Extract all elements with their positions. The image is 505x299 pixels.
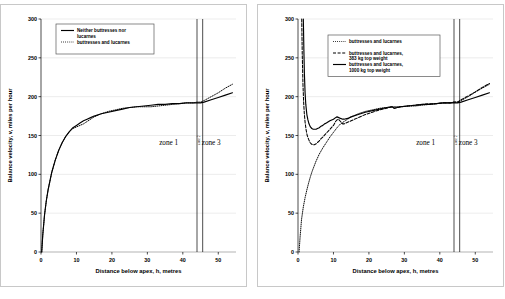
y-tick-label: 50 xyxy=(31,210,37,216)
y-tick-label: 0 xyxy=(291,249,294,255)
x-tick-label: 10 xyxy=(330,257,336,263)
y-tick-label: 200 xyxy=(28,94,37,100)
x-axis-title: Distance below apex, h, metres xyxy=(352,268,438,274)
x-tick-label: 30 xyxy=(401,257,407,263)
x-tick-label: 20 xyxy=(366,257,372,263)
y-tick-label: 150 xyxy=(285,133,294,139)
y-tick-label: 300 xyxy=(28,16,37,22)
x-tick-label: 40 xyxy=(180,257,186,263)
legend-label-1: buttresses and lucarnes xyxy=(349,39,402,44)
y-tick-label: 50 xyxy=(288,210,294,216)
x-tick-label: 50 xyxy=(472,257,478,263)
x-tick-label: 10 xyxy=(73,257,79,263)
zone-label-3: zone 3 xyxy=(202,139,221,147)
figure-container: 05010015020025030001020304050Distance be… xyxy=(0,0,505,299)
legend: Neither buttresses norlucarnesbuttresses… xyxy=(56,24,154,54)
legend-label-2: 383 kg top weight xyxy=(349,56,388,61)
zone-label-vertical: zone 2 xyxy=(454,135,458,145)
y-tick-label: 250 xyxy=(28,55,37,61)
y-axis-title: Balance velocity, v, miles per hour xyxy=(7,88,13,183)
x-axis-ticks: 01020304050 xyxy=(297,252,479,263)
legend: buttresses and lucarnesbuttresses and lu… xyxy=(328,35,440,77)
chart-svg-left: 05010015020025030001020304050Distance be… xyxy=(1,5,246,286)
y-tick-label: 200 xyxy=(285,94,294,100)
y-axis-title: Balance velocity, v, miles per hour xyxy=(264,88,270,183)
x-axis-title: Distance below apex, h, metres xyxy=(95,268,181,274)
y-axis-ticks: 050100150200250300 xyxy=(285,16,298,255)
y-tick-label: 250 xyxy=(285,55,294,61)
zone-label-vertical: zone 2 xyxy=(197,135,201,145)
zone-label-1: zone 1 xyxy=(416,139,435,147)
chart-panel-right: 05010015020025030001020304050Distance be… xyxy=(257,4,504,287)
x-tick-label: 50 xyxy=(215,257,221,263)
x-tick-label: 30 xyxy=(144,257,150,263)
x-axis-ticks: 01020304050 xyxy=(40,252,222,263)
legend-label-1: lucarnes xyxy=(77,34,96,39)
chart-panel-left: 05010015020025030001020304050Distance be… xyxy=(0,4,247,287)
chart-svg-right: 05010015020025030001020304050Distance be… xyxy=(258,5,503,286)
legend-label-3: 1000 kg top weight xyxy=(349,68,391,73)
y-axis-ticks: 050100150200250300 xyxy=(28,16,41,255)
y-tick-label: 100 xyxy=(28,171,37,177)
y-tick-label: 0 xyxy=(34,249,37,255)
y-tick-label: 150 xyxy=(28,133,37,139)
zone-label-3: zone 3 xyxy=(459,139,478,147)
x-tick-label: 40 xyxy=(437,257,443,263)
y-tick-label: 300 xyxy=(285,16,294,22)
zone-label-1: zone 1 xyxy=(159,139,178,147)
x-tick-label: 20 xyxy=(109,257,115,263)
legend-label-2: buttresses and lucarnes xyxy=(77,40,130,45)
x-tick-label: 0 xyxy=(297,257,300,263)
y-tick-label: 100 xyxy=(285,171,294,177)
x-tick-label: 0 xyxy=(40,257,43,263)
